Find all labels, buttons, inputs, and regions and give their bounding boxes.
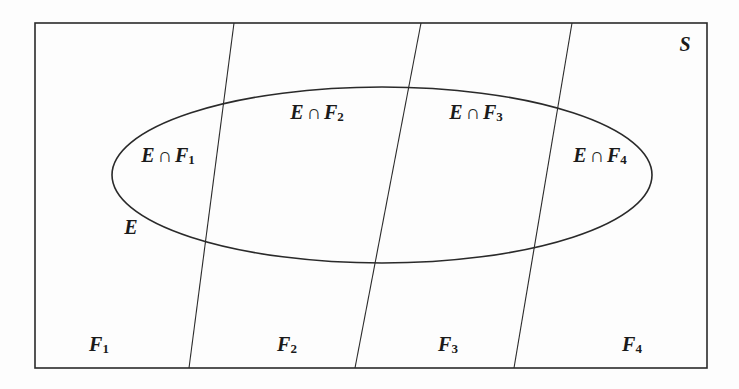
intersection-3-left: E [449,101,462,123]
partition-3-sub: 3 [451,341,458,356]
partition-1-sub: 1 [102,341,109,356]
sample-space-rect [35,23,707,368]
sample-space-label: S [679,34,690,54]
intersection-4-left: E [573,144,586,166]
partition-2-sub: 2 [290,341,297,356]
intersection-label-4: E∩F4 [573,145,627,165]
partition-label-3: F3 [438,334,458,354]
diagram-canvas: S E E∩F1 E∩F2 E∩F3 E∩F4 F1 F2 F3 F4 [0,0,739,389]
intersection-1-left: E [141,144,154,166]
partition-divider-2 [355,23,421,368]
intersection-2-left: E [290,101,303,123]
partition-2-letter: F [277,333,290,355]
intersection-1-op: ∩ [158,144,172,166]
partition-label-2: F2 [277,334,297,354]
partition-divider-1 [189,23,234,368]
partition-1-letter: F [89,333,102,355]
intersection-3-op: ∩ [466,101,480,123]
intersection-3-right: F [483,101,496,123]
intersection-label-1: E∩F1 [141,145,195,165]
intersection-4-sub: 4 [620,152,627,167]
event-e-label-text: E [124,216,137,238]
intersection-label-2: E∩F2 [290,102,344,122]
event-e-label: E [124,217,137,237]
intersection-2-op: ∩ [307,101,321,123]
sample-space-label-text: S [679,33,690,55]
partition-3-letter: F [438,333,451,355]
intersection-2-sub: 2 [337,109,344,124]
intersection-2-right: F [324,101,337,123]
intersection-label-3: E∩F3 [449,102,503,122]
intersection-4-right: F [607,144,620,166]
diagram-shapes [0,0,739,389]
partition-divider-3 [514,23,572,368]
partition-4-letter: F [622,333,635,355]
event-e-ellipse [112,87,652,263]
partition-label-4: F4 [622,334,642,354]
intersection-1-right: F [175,144,188,166]
partition-4-sub: 4 [635,341,642,356]
intersection-1-sub: 1 [188,152,195,167]
partition-label-1: F1 [89,334,109,354]
intersection-4-op: ∩ [590,144,604,166]
intersection-3-sub: 3 [496,109,503,124]
